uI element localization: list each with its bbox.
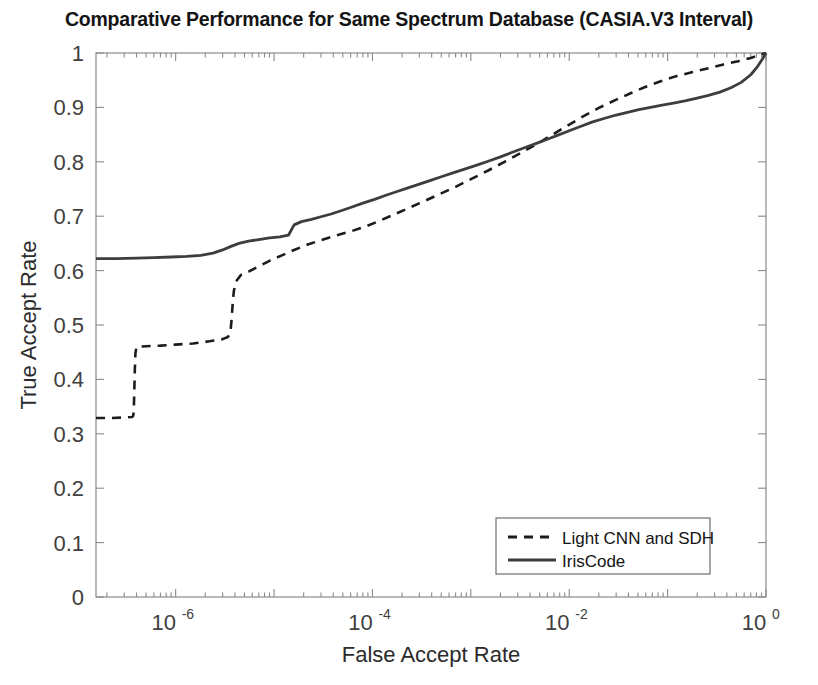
y-axis-tick-labels: 00.10.20.30.40.50.60.70.80.91 [53, 41, 84, 610]
legend-label-iriscode: IrisCode [562, 552, 625, 571]
svg-text:10: 10 [151, 610, 175, 635]
y-tick-label-0_3: 0.3 [53, 422, 84, 447]
y-tick-label-0_9: 0.9 [53, 95, 84, 120]
x-tick-label-10-6: 10-6 [151, 606, 194, 635]
y-tick-label-0_7: 0.7 [53, 204, 84, 229]
y-tick-label-0_8: 0.8 [53, 150, 84, 175]
y-tick-label-1: 1 [72, 41, 84, 66]
plot-frame [96, 53, 766, 597]
svg-text:10: 10 [742, 610, 766, 635]
y-tick-label-0: 0 [72, 585, 84, 610]
y-tick-label-0_5: 0.5 [53, 313, 84, 338]
svg-text:0: 0 [772, 606, 780, 622]
y-tick-label-0_1: 0.1 [53, 531, 84, 556]
svg-text:-4: -4 [378, 606, 391, 622]
x-tick-label-10-4: 10-4 [348, 606, 391, 635]
svg-text:-6: -6 [182, 606, 195, 622]
y-axis-title: True Accept Rate [16, 240, 41, 409]
svg-text:10: 10 [545, 610, 569, 635]
roc-chart-plot: 10-610-410-2100 00.10.20.30.40.50.60.70.… [0, 0, 818, 685]
x-tick-label-100: 100 [742, 606, 780, 635]
x-axis-tick-labels: 10-610-410-2100 [151, 606, 780, 635]
x-axis-title: False Accept Rate [342, 642, 521, 667]
svg-text:-2: -2 [575, 606, 588, 622]
chart-legend: Light CNN and SDH IrisCode [496, 518, 714, 574]
svg-text:10: 10 [348, 610, 372, 635]
y-tick-label-0_4: 0.4 [53, 367, 84, 392]
legend-label-light-cnn-and-sdh: Light CNN and SDH [562, 529, 714, 548]
figure-canvas: Comparative Performance for Same Spectru… [0, 0, 818, 685]
y-tick-label-0_2: 0.2 [53, 476, 84, 501]
y-tick-label-0_6: 0.6 [53, 259, 84, 284]
x-tick-label-10-2: 10-2 [545, 606, 588, 635]
